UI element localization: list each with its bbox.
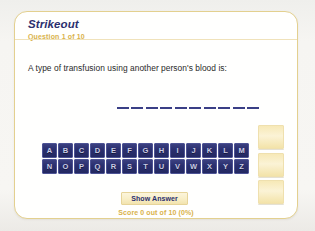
question-counter: Question 1 of 10	[28, 32, 297, 42]
blank-underscore	[146, 107, 158, 109]
question-prompt: A type of transfusion using another pers…	[28, 63, 280, 74]
letter-key-p[interactable]: P	[74, 159, 89, 174]
letter-key-h[interactable]: H	[154, 143, 169, 158]
blank-underscore	[247, 107, 259, 109]
letter-key-c[interactable]: C	[74, 143, 89, 158]
page-title: Strikeout	[28, 18, 297, 30]
blank-underscore	[189, 107, 201, 109]
blank-slot	[131, 96, 143, 109]
letter-key-d[interactable]: D	[90, 143, 105, 158]
blank-slot	[218, 96, 230, 109]
letter-key-e[interactable]: E	[106, 143, 121, 158]
letter-key-w[interactable]: W	[186, 159, 201, 174]
blank-slot	[160, 96, 172, 109]
strikeout-quiz-card: Strikeout Question 1 of 10 A type of tra…	[14, 11, 298, 219]
keyboard-row-1: A B C D E F G H I J K L M	[42, 143, 253, 158]
blank-slot	[189, 96, 201, 109]
answer-blanks	[117, 95, 259, 109]
strike-strips-panel	[258, 125, 284, 204]
letter-key-t[interactable]: T	[138, 159, 153, 174]
score-status: Score 0 out of 10 (0%)	[15, 209, 297, 216]
letter-key-l[interactable]: L	[218, 143, 233, 158]
blank-underscore	[117, 107, 129, 109]
blank-slot	[233, 96, 245, 109]
blank-underscore	[175, 107, 187, 109]
blank-underscore	[233, 107, 245, 109]
blank-slot	[146, 96, 158, 109]
blank-underscore	[131, 107, 143, 109]
card-header: Strikeout Question 1 of 10	[15, 12, 297, 39]
blank-slot	[117, 96, 129, 109]
show-answer-button[interactable]: Show Answer	[121, 192, 188, 205]
letter-key-f[interactable]: F	[122, 143, 137, 158]
blank-underscore	[204, 107, 216, 109]
letter-key-z[interactable]: Z	[234, 159, 249, 174]
letter-key-a[interactable]: A	[42, 143, 57, 158]
blank-underscore	[160, 107, 172, 109]
strike-strip-1	[258, 125, 284, 149]
letter-key-n[interactable]: N	[42, 159, 57, 174]
letter-key-m[interactable]: M	[234, 143, 249, 158]
letter-key-x[interactable]: X	[202, 159, 217, 174]
blank-slot	[247, 96, 259, 109]
keyboard-row-2: N O P Q R S T U V W X Y Z	[42, 159, 253, 174]
letter-key-b[interactable]: B	[58, 143, 73, 158]
blank-underscore	[218, 107, 230, 109]
strike-strip-3	[258, 180, 284, 204]
letter-keyboard: A B C D E F G H I J K L M N O P Q R S T …	[42, 143, 253, 175]
letter-key-k[interactable]: K	[202, 143, 217, 158]
letter-key-y[interactable]: Y	[218, 159, 233, 174]
letter-key-v[interactable]: V	[170, 159, 185, 174]
blank-slot	[175, 96, 187, 109]
letter-key-j[interactable]: J	[186, 143, 201, 158]
letter-key-u[interactable]: U	[154, 159, 169, 174]
strike-strip-2	[258, 153, 284, 177]
letter-key-i[interactable]: I	[170, 143, 185, 158]
blank-slot	[204, 96, 216, 109]
letter-key-s[interactable]: S	[122, 159, 137, 174]
letter-key-o[interactable]: O	[58, 159, 73, 174]
letter-key-q[interactable]: Q	[90, 159, 105, 174]
header-divider	[15, 39, 297, 40]
letter-key-g[interactable]: G	[138, 143, 153, 158]
letter-key-r[interactable]: R	[106, 159, 121, 174]
